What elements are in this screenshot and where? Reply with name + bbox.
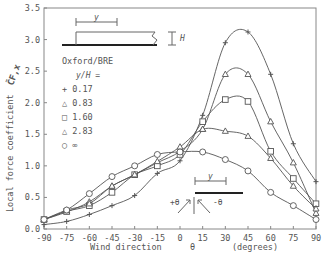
data-point-marker xyxy=(86,191,92,197)
legend-item-4: ○ ∞ xyxy=(62,140,77,150)
data-point-marker xyxy=(109,190,115,196)
data-point-marker xyxy=(177,144,183,149)
data-point-marker xyxy=(200,149,206,155)
force-coefficient-chart: 0.00.51.01.52.02.53.03.5 -90-75-60-45-30… xyxy=(0,0,329,254)
data-point-marker xyxy=(177,149,183,155)
x-tick-label: 75 xyxy=(288,233,298,243)
wind-direction-inset: y +θ -θ xyxy=(170,172,243,214)
y-tick-label: 1.5 xyxy=(25,129,40,139)
x-tick-label: 15 xyxy=(198,233,208,243)
y-axis-symbol: C̃F,x xyxy=(4,62,23,87)
x-tick-label: 90 xyxy=(311,233,321,243)
x-tick-label: 0 xyxy=(177,233,182,243)
data-point-marker xyxy=(87,212,92,217)
series-line-3 xyxy=(44,128,316,219)
legend-item-3: △ 2.83 xyxy=(62,126,93,136)
data-point-marker xyxy=(290,203,296,209)
data-point-marker xyxy=(41,217,47,223)
legend-item-0: + 0.17 xyxy=(62,84,93,94)
data-point-marker xyxy=(245,99,251,105)
y-tick-label: 3.5 xyxy=(25,3,40,13)
y-tick-label: 3.0 xyxy=(25,35,40,45)
inset-h-label: H xyxy=(179,34,185,43)
plus-theta-label: +θ xyxy=(170,198,180,207)
data-point-marker xyxy=(223,40,228,45)
y-axis-label: Local force coefficient xyxy=(5,94,15,212)
legend-item-2: □ 1.60 xyxy=(62,112,93,122)
data-point-marker xyxy=(154,151,160,157)
data-point-marker xyxy=(313,217,319,223)
data-point-marker xyxy=(154,158,160,163)
chart-canvas: 0.00.51.01.52.02.53.03.5 -90-75-60-45-30… xyxy=(0,0,329,254)
data-point-marker xyxy=(200,113,205,118)
y-tick-label: 2.0 xyxy=(25,98,40,108)
data-point-marker xyxy=(268,72,273,77)
data-point-marker xyxy=(132,163,138,169)
data-point-marker xyxy=(268,118,274,123)
legend-title: Oxford/BRE xyxy=(62,56,113,66)
data-point-marker xyxy=(64,219,69,224)
data-point-marker xyxy=(222,157,228,163)
building-inset-diagram: y H xyxy=(62,13,185,45)
data-point-marker xyxy=(109,183,115,188)
data-point-marker xyxy=(268,149,274,155)
x-axis-units: (degrees) xyxy=(232,242,278,252)
data-point-marker xyxy=(245,133,251,138)
data-point-marker xyxy=(291,176,297,182)
y-tick-label: 0.5 xyxy=(25,192,40,202)
legend-subtitle: y/H = xyxy=(75,71,100,80)
inset2-y-label: y xyxy=(207,172,213,181)
data-point-marker xyxy=(109,174,115,180)
data-point-marker xyxy=(110,203,115,208)
y-tick-label: 1.0 xyxy=(25,161,40,171)
y-tick-label: 2.5 xyxy=(25,66,40,76)
x-axis-theta: θ xyxy=(190,242,195,252)
data-point-marker xyxy=(291,141,296,146)
data-point-marker xyxy=(268,189,274,195)
plus-theta-arrow-icon xyxy=(178,200,190,213)
inset-y-label: y xyxy=(93,13,99,22)
legend-item-1: △ 0.83 xyxy=(62,98,93,108)
data-point-marker xyxy=(290,160,296,165)
x-tick-label: -90 xyxy=(36,233,51,243)
x-tick-label: 30 xyxy=(220,233,230,243)
data-point-marker xyxy=(223,97,229,103)
break-mark-icon xyxy=(152,32,157,45)
x-tick-label: -75 xyxy=(59,233,74,243)
minus-theta-label: -θ xyxy=(213,198,223,207)
x-axis-label: Wind direction xyxy=(90,242,162,252)
data-point-marker xyxy=(64,207,70,213)
minus-theta-arrow-icon xyxy=(198,200,210,213)
data-point-marker xyxy=(200,119,206,125)
legend: Oxford/BRE y/H = + 0.17 △ 0.83 □ 1.60 △ … xyxy=(62,56,113,150)
data-point-marker xyxy=(314,179,319,184)
data-point-marker xyxy=(245,168,251,174)
